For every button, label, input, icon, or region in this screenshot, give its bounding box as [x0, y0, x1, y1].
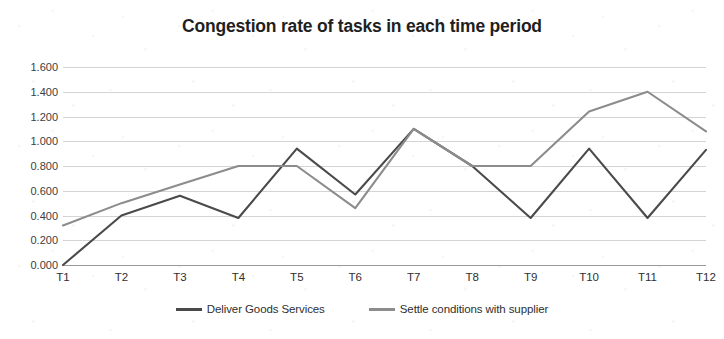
x-axis-tick-label: T3	[173, 271, 186, 283]
chart-container: Congestion rate of tasks in each time pe…	[0, 0, 724, 339]
x-axis-tick-label: T9	[524, 271, 537, 283]
y-axis-tick-label: 0.600	[12, 186, 58, 196]
x-axis-tick-label: T6	[349, 271, 362, 283]
legend-label: Settle conditions with supplier	[400, 303, 548, 315]
y-axis-tick-label: 1.200	[12, 112, 58, 122]
legend-entry-1[interactable]: Deliver Goods Services	[176, 303, 325, 315]
x-axis-tick-label: T12	[696, 271, 716, 283]
series-line-1	[63, 129, 706, 265]
legend-label: Deliver Goods Services	[207, 303, 325, 315]
x-axis-tick-labels: T1T2T3T4T5T6T7T8T9T10T11T12	[63, 271, 706, 289]
y-axis-tick-label: 0.400	[12, 211, 58, 221]
y-axis-tick-label: 1.400	[12, 87, 58, 97]
series-line-2	[63, 92, 706, 226]
legend-entry-2[interactable]: Settle conditions with supplier	[369, 303, 548, 315]
legend-line-swatch-icon	[369, 308, 395, 311]
x-axis-tick-label: T5	[290, 271, 303, 283]
x-axis-tick-label: T8	[465, 271, 478, 283]
y-axis-tick-label: 0.800	[12, 161, 58, 171]
y-axis-tick-label: 0.200	[12, 235, 58, 245]
x-axis-line	[63, 265, 706, 266]
x-axis-tick-label: T10	[579, 271, 599, 283]
x-axis-tick-label: T1	[56, 271, 69, 283]
x-axis-tick-label: T4	[232, 271, 245, 283]
chart-title: Congestion rate of tasks in each time pe…	[0, 16, 724, 37]
plot-area	[63, 67, 706, 265]
x-axis-tick-label: T11	[638, 271, 657, 283]
y-axis-tick-label: 1.600	[12, 62, 58, 72]
y-axis-tick-labels: 0.0000.2000.4000.6000.8001.0001.2001.400…	[8, 67, 58, 265]
x-axis-tick-label: T2	[115, 271, 128, 283]
legend-line-swatch-icon	[176, 308, 202, 311]
x-axis-tick-label: T7	[407, 271, 420, 283]
y-axis-tick-label: 0.000	[12, 260, 58, 270]
series-lines	[63, 67, 706, 265]
chart-legend: Deliver Goods ServicesSettle conditions …	[0, 303, 724, 315]
y-axis-tick-label: 1.000	[12, 136, 58, 146]
